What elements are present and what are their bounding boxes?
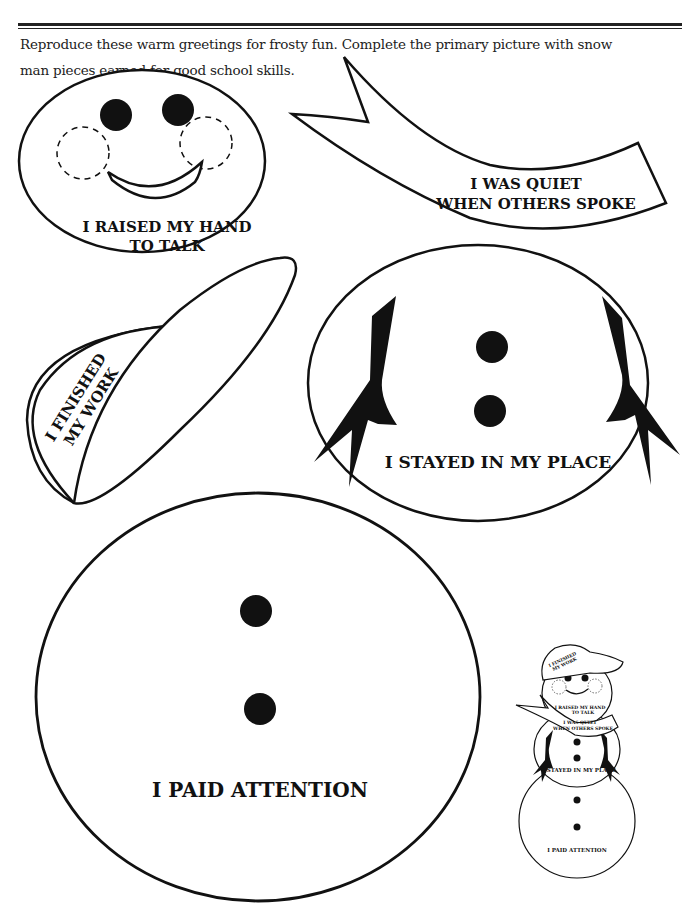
bottom-button-2 [244, 693, 276, 725]
bottom-body-piece: I PAID ATTENTION [36, 493, 480, 901]
scarf-label-1: I WAS QUIET [470, 175, 582, 193]
hat-piece: I FINISHED MY WORK [27, 258, 296, 504]
head-label-1: I RAISED MY HAND [83, 218, 252, 236]
middle-button-1 [476, 331, 508, 363]
snowman-head-piece: I RAISED MY HAND TO TALK [19, 70, 265, 255]
scarf-piece: I WAS QUIET WHEN OTHERS SPOKE [292, 57, 666, 229]
bottom-button-1 [240, 595, 272, 627]
middle-body-label: I STAYED IN MY PLACE [385, 452, 612, 472]
preview-bottom-label: I PAID ATTENTION [547, 847, 606, 853]
scarf-label-2: WHEN OTHERS SPOKE [435, 195, 635, 213]
preview-middle-label: I STAYED IN MY PLACE [542, 767, 615, 773]
preview-scarf-label-1: I WAS QUIET [563, 720, 597, 725]
preview-snowman: I PAID ATTENTION I STAYED IN MY PLACE I … [516, 645, 635, 878]
middle-button-2 [474, 395, 506, 427]
bottom-body-label: I PAID ATTENTION [152, 778, 368, 802]
right-eye [162, 94, 194, 126]
left-eye [100, 99, 132, 131]
middle-body-piece: I STAYED IN MY PLACE [308, 245, 680, 521]
preview-scarf-label-2: WHEN OTHERS SPOKE [552, 726, 613, 731]
preview-head-label-2: TO TALK [572, 710, 596, 715]
head-label-2: TO TALK [129, 237, 205, 255]
